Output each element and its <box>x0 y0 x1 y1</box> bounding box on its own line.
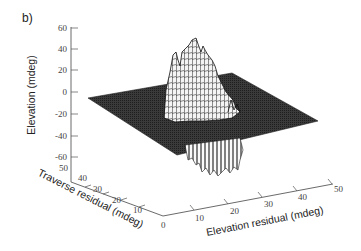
y-axis: 50 40 30 20 10 0 Traverse residual (mdeg… <box>36 163 166 230</box>
y-tick-label: 0 <box>161 220 166 230</box>
x-tick-label: 20 <box>230 206 240 216</box>
z-tick-label: -60 <box>55 152 67 162</box>
x-axis: 10 20 30 40 50 Elevation residual (mdeg) <box>163 179 344 238</box>
x-tick-label: 50 <box>334 184 344 194</box>
trough-spikes <box>185 138 243 176</box>
z-tick-label: -40 <box>55 131 67 141</box>
z-tick-label: 60 <box>58 23 68 33</box>
z-tick-label: 40 <box>58 44 68 54</box>
z-axis: 60 40 20 0 -20 -40 -60 Elevation (mdeg) <box>25 23 78 182</box>
y-tick-label: 50 <box>59 163 69 173</box>
z-axis-title: Elevation (mdeg) <box>25 55 37 134</box>
z-tick-label: -20 <box>55 109 67 119</box>
z-tick-label: 0 <box>63 87 68 97</box>
surface-plot-figure: b) 60 40 20 0 -20 -40 -60 Elevation (mde… <box>0 0 361 251</box>
x-tick-label: 40 <box>298 192 308 202</box>
x-tick-label: 30 <box>264 199 274 209</box>
y-tick-label: 40 <box>78 173 88 183</box>
z-tick-label: 20 <box>58 65 68 75</box>
surface-mesh <box>88 38 318 176</box>
y-axis-title: Traverse residual (mdeg) <box>36 166 146 230</box>
x-tick-label: 10 <box>195 213 205 223</box>
panel-label: b) <box>22 11 33 25</box>
